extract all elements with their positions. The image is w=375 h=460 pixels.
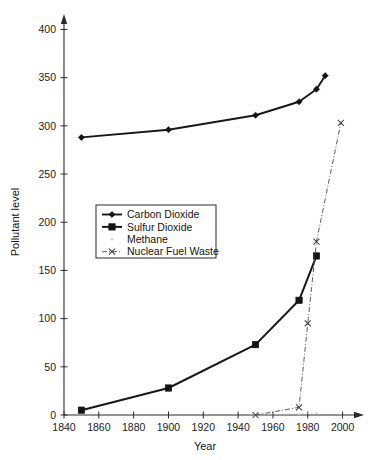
x-tick-label: 1940 [226, 421, 250, 433]
data-point-marker [165, 385, 171, 391]
legend-label: Carbon Dioxide [127, 208, 200, 220]
data-point-marker [338, 120, 344, 126]
y-tick-label: 200 [38, 216, 56, 228]
x-tick-label: 1860 [87, 421, 111, 433]
legend-label: Methane [127, 233, 168, 245]
series-carbon-dioxide [78, 73, 328, 141]
x-axis-title: Year [194, 440, 217, 452]
x-tick-label: 1980 [296, 421, 320, 433]
y-axis-ticks: 050100150200250300350400 [38, 23, 67, 421]
data-point-marker [109, 224, 115, 230]
data-point-marker [111, 238, 113, 240]
data-point-marker [252, 341, 258, 347]
legend-label: Sulfur Dioxide [127, 221, 193, 233]
y-axis-title: Pollutant level [9, 188, 21, 257]
legend-label: Nuclear Fuel Waste [127, 245, 219, 257]
pollutant-level-line-chart: 050100150200250300350400 184018601880190… [0, 0, 375, 460]
y-tick-label: 150 [38, 264, 56, 276]
x-tick-label: 1880 [122, 421, 146, 433]
y-tick-label: 400 [38, 23, 56, 35]
x-tick-label: 1920 [192, 421, 216, 433]
y-tick-label: 250 [38, 168, 56, 180]
x-tick-label: 1840 [52, 421, 76, 433]
series-nuclear-fuel-waste [253, 120, 344, 418]
chart-legend: Carbon DioxideSulfur DioxideMethaneNucle… [96, 205, 219, 258]
data-point-marker [78, 407, 84, 413]
y-tick-label: 0 [50, 409, 56, 421]
y-tick-label: 300 [38, 120, 56, 132]
data-point-marker [165, 127, 171, 133]
y-tick-label: 100 [38, 312, 56, 324]
x-tick-label: 1900 [157, 421, 181, 433]
x-tick-label: 1960 [261, 421, 285, 433]
y-tick-label: 350 [38, 71, 56, 83]
data-point-marker [78, 134, 84, 140]
series-sulfur-dioxide [78, 253, 319, 414]
data-point-marker [252, 112, 258, 118]
data-point-marker [298, 413, 300, 415]
data-point-marker [313, 253, 319, 259]
data-point-marker [315, 412, 317, 414]
y-tick-label: 50 [44, 361, 56, 373]
x-tick-label: 2000 [331, 421, 355, 433]
chart-canvas: 050100150200250300350400 184018601880190… [0, 0, 375, 460]
data-point-marker [296, 297, 302, 303]
